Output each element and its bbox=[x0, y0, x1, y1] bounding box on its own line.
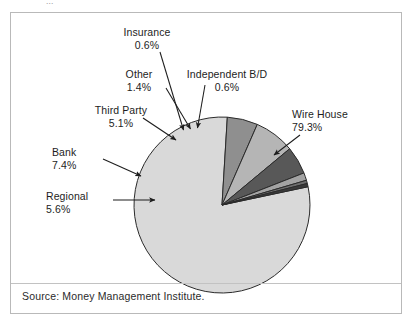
slice-label-wire-house-pct: 79.3% bbox=[292, 121, 384, 134]
slice-label-other-name: Other bbox=[126, 68, 153, 80]
slice-label-insurance-pct: 0.6% bbox=[104, 39, 190, 52]
slice-label-independent-bd: Independent B/D 0.6% bbox=[175, 68, 279, 93]
slice-label-wire-house: Wire House 79.3% bbox=[292, 108, 384, 133]
slice-label-wire-house-name: Wire House bbox=[292, 108, 348, 120]
slice-label-third-party-pct: 5.1% bbox=[82, 117, 160, 130]
leader-line-other bbox=[166, 88, 191, 129]
slice-label-regional: Regional 5.6% bbox=[46, 190, 114, 215]
chart-figure: ... Insurance 0.6% Other 1.4% Independen… bbox=[0, 0, 412, 323]
pie-slice-group bbox=[134, 117, 310, 293]
slice-label-bank-pct: 7.4% bbox=[52, 159, 102, 172]
slice-label-independent-bd-name: Independent B/D bbox=[187, 68, 267, 80]
slice-label-independent-bd-pct: 0.6% bbox=[175, 81, 279, 94]
slice-label-bank-name: Bank bbox=[52, 146, 76, 158]
slice-label-insurance-name: Insurance bbox=[123, 26, 170, 38]
slice-label-third-party: Third Party 5.1% bbox=[82, 104, 160, 129]
slice-label-regional-name: Regional bbox=[46, 190, 88, 202]
slice-label-other: Other 1.4% bbox=[112, 68, 166, 93]
slice-label-other-pct: 1.4% bbox=[112, 81, 166, 94]
slice-label-bank: Bank 7.4% bbox=[52, 146, 102, 171]
leader-line-bank bbox=[103, 159, 141, 176]
slice-label-insurance: Insurance 0.6% bbox=[104, 26, 190, 51]
source-note: Source: Money Management Institute. bbox=[22, 290, 205, 302]
slice-label-regional-pct: 5.6% bbox=[46, 203, 114, 216]
slice-label-third-party-name: Third Party bbox=[95, 104, 147, 116]
source-divider bbox=[11, 283, 401, 284]
